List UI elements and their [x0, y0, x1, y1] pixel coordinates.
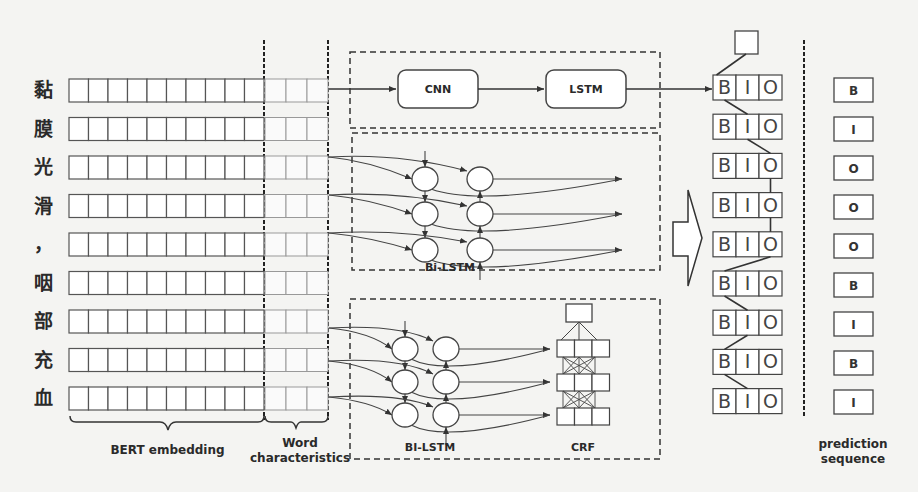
- bert-embedding-cell: [225, 195, 245, 218]
- bio-tag-label: I: [745, 115, 751, 137]
- input-character: 滑: [30, 194, 56, 218]
- bert-embedding-cell: [225, 118, 245, 141]
- bert-embedding-cell: [186, 156, 206, 179]
- bert-embedding-cell: [206, 233, 226, 256]
- bilstm-top-input-arrow: [329, 233, 412, 250]
- viterbi-path-segment: [725, 374, 748, 388]
- bert-embedding-cell: [245, 156, 265, 179]
- word-feature-cell: [286, 310, 307, 333]
- bert-embedding-cell: [245, 195, 265, 218]
- viterbi-path-segment: [725, 335, 748, 349]
- bilstm-bottom-backward-cell: [433, 337, 459, 361]
- prediction-label: O: [848, 162, 858, 176]
- bio-tag-label: O: [763, 390, 778, 412]
- bio-tag-label: I: [745, 390, 751, 412]
- word-feature-cell: [307, 272, 328, 295]
- bio-tag-label: O: [763, 233, 778, 255]
- bert-embedding-cell: [167, 156, 187, 179]
- bert-embedding-cell: [225, 387, 245, 410]
- bert-embedding-cell: [225, 310, 245, 333]
- bert-embedding-cell: [69, 233, 89, 256]
- input-character: 血: [30, 386, 56, 410]
- bert-embedding-cell: [147, 118, 167, 141]
- bert-embedding-cell: [108, 349, 128, 372]
- bert-embedding-cell: [167, 118, 187, 141]
- word-feature-cell: [307, 233, 328, 256]
- bert-embedding-cell: [147, 272, 167, 295]
- bert-embedding-label: BERT embedding: [100, 443, 235, 458]
- bio-tag-label: B: [718, 390, 731, 412]
- bilstm-bottom-input-arrow: [329, 360, 433, 374]
- bio-tag-label: I: [745, 154, 751, 176]
- bert-embedding-cell: [186, 272, 206, 295]
- bilstm-top-backward-output: [431, 214, 622, 231]
- bio-tag-label: O: [763, 194, 778, 216]
- crf-edge: [579, 322, 597, 340]
- bert-embedding-cell: [186, 79, 206, 102]
- bert-embedding-cell: [186, 118, 206, 141]
- bilstm-top-input-arrow: [329, 157, 412, 179]
- bert-embedding-cell: [108, 272, 128, 295]
- bert-embedding-cell: [69, 79, 89, 102]
- bio-tag-label: B: [718, 76, 731, 98]
- bert-embedding-cell: [206, 387, 226, 410]
- bilstm-bottom-forward-cell: [392, 403, 418, 427]
- word-feature-cell: [307, 79, 328, 102]
- bilstm-bottom-input-arrow: [329, 327, 433, 341]
- word-feature-cell: [286, 156, 307, 179]
- bert-embedding-cell: [69, 272, 89, 295]
- bio-tag-label: O: [763, 76, 778, 98]
- bio-start-node: [735, 31, 758, 54]
- bilstm-bottom-backward-cell: [433, 403, 459, 427]
- bert-embedding-cell: [108, 310, 128, 333]
- crf-tag-cell: [575, 340, 593, 357]
- bert-embedding-cell: [69, 118, 89, 141]
- word-feature-cell: [307, 118, 328, 141]
- bio-tag-label: O: [763, 115, 778, 137]
- bio-tag-label: B: [718, 233, 731, 255]
- bert-embedding-cell: [89, 310, 109, 333]
- bert-embedding-cell: [147, 387, 167, 410]
- bert-embedding-cell: [225, 156, 245, 179]
- word-feature-cell: [286, 387, 307, 410]
- bert-embedding-cell: [69, 195, 89, 218]
- word-feature-cell: [286, 195, 307, 218]
- bilstm-bottom-label: BI-LSTM: [390, 440, 470, 455]
- bert-embedding-cell: [89, 233, 109, 256]
- viterbi-path-segment: [725, 100, 748, 114]
- bert-embedding-cell: [186, 310, 206, 333]
- prediction-label: I: [851, 123, 855, 137]
- word-characteristics-label: Word characteristics: [250, 436, 350, 466]
- word-label-line1: Word: [250, 436, 350, 451]
- cnn-label: CNN: [398, 82, 478, 97]
- bilstm-top-input-arrow: [329, 156, 467, 171]
- bio-tag-label: B: [718, 194, 731, 216]
- crf-edge: [561, 322, 579, 340]
- prediction-label: B: [849, 357, 858, 371]
- input-character: 充: [30, 348, 56, 372]
- bio-tag-label: I: [745, 350, 751, 372]
- bert-embedding-cell: [108, 118, 128, 141]
- bert-embedding-cell: [89, 156, 109, 179]
- bert-embedding-cell: [245, 272, 265, 295]
- bert-embedding-cell: [206, 310, 226, 333]
- bilstm-bottom-backward-cell: [433, 370, 459, 394]
- bilstm-bottom-input-arrow: [329, 328, 392, 349]
- bert-embedding-cell: [89, 272, 109, 295]
- bio-tag-label: B: [718, 311, 731, 333]
- word-feature-cell: [307, 195, 328, 218]
- viterbi-path-segment: [725, 296, 748, 310]
- bert-embedding-cell: [147, 233, 167, 256]
- bio-tag-label: B: [718, 115, 731, 137]
- crf-tag-cell: [557, 340, 575, 357]
- lstm-label: LSTM: [546, 82, 626, 97]
- word-feature-cell: [265, 79, 286, 102]
- prediction-label: O: [848, 240, 858, 254]
- prediction-label: B: [849, 279, 858, 293]
- bert-embedding-cell: [147, 79, 167, 102]
- bert-embedding-cell: [225, 272, 245, 295]
- bio-tag-label: B: [718, 272, 731, 294]
- input-character: 光: [30, 155, 56, 179]
- bert-embedding-cell: [108, 79, 128, 102]
- bert-embedding-cell: [167, 349, 187, 372]
